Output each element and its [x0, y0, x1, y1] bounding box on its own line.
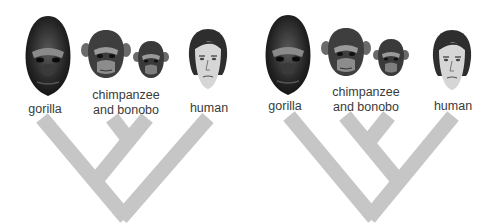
human-label: human: [190, 101, 228, 116]
human-face-icon: [186, 27, 230, 91]
chimpanzee-label-line1: chimpanzee: [92, 88, 159, 103]
chimpanzee-label-line2: and bonobo: [93, 103, 159, 118]
gorilla-label: gorilla: [268, 99, 301, 114]
gorilla-label: gorilla: [28, 102, 61, 117]
gorilla-face-icon: [262, 13, 314, 97]
chimpanzee-face-icon: [321, 26, 371, 78]
left-tree-panel: gorilla chimpanzee and bonobo human: [0, 0, 251, 223]
bonobo-face-icon: [373, 38, 409, 78]
right-tree-panel: gorilla chimpanzee and bonobo human: [251, 0, 502, 223]
gorilla-face-icon: [22, 14, 74, 98]
human-face-icon: [430, 28, 474, 92]
chimpanzee-face-icon: [81, 28, 131, 80]
human-label: human: [434, 99, 472, 114]
chimpanzee-label-line2: and bonobo: [333, 100, 399, 115]
bonobo-face-icon: [133, 40, 169, 80]
chimpanzee-label-line1: chimpanzee: [332, 85, 399, 100]
